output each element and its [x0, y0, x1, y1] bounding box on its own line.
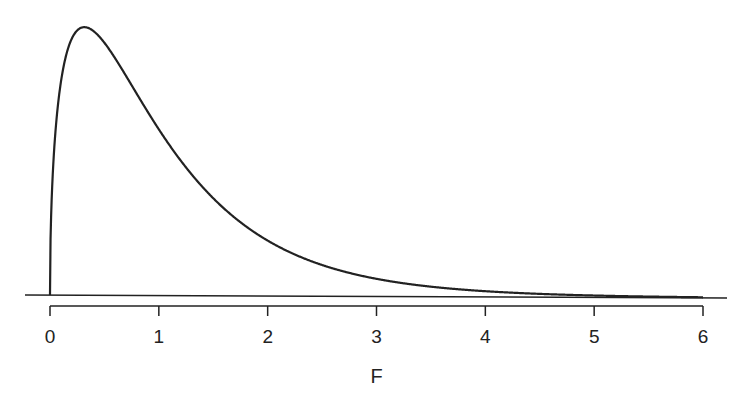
- x-tick-label: 2: [262, 326, 273, 347]
- x-tick-label: 5: [589, 326, 600, 347]
- x-tick-label: 1: [154, 326, 165, 347]
- x-axis-ticks: 0123456: [45, 306, 709, 347]
- f-distribution-chart: 0123456 F: [0, 0, 751, 406]
- x-axis: 0123456: [45, 306, 709, 347]
- x-tick-label: 3: [371, 326, 382, 347]
- density-curve: [50, 27, 703, 297]
- x-tick-label: 0: [45, 326, 56, 347]
- x-axis-title: F: [370, 365, 382, 387]
- x-tick-label: 6: [698, 326, 709, 347]
- x-tick-label: 4: [480, 326, 491, 347]
